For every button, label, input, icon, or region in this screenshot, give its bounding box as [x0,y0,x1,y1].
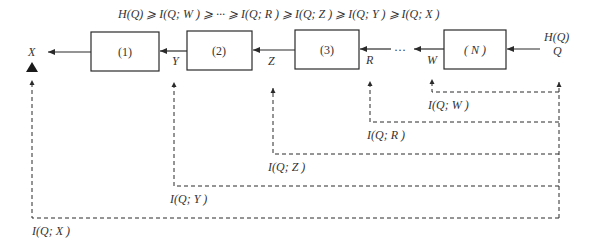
block-3-label: (3) [320,44,334,56]
feedback-w [432,79,559,92]
signal-y: Y [172,55,179,67]
ellipsis: ··· [394,44,406,56]
mi-label-r: I(Q; R ) [367,129,405,141]
signal-r: R [366,54,373,66]
diagram-canvas [0,0,593,239]
inequality-chain: H(Q) ⩾ I(Q; W ) ⩾ ··· ⩾ I(Q; R ) ⩾ I(Q; … [118,7,440,22]
source-q: Q [553,45,562,57]
mi-label-x: I(Q; X ) [32,225,70,237]
block-n-label: ( N ) [464,44,486,56]
mi-label-z: I(Q; Z ) [268,161,305,173]
signal-x: X [28,46,35,58]
feedback-x [32,80,559,218]
signal-z: Z [268,55,275,67]
mi-label-w: I(Q; W ) [428,99,469,111]
mi-label-y: I(Q; Y ) [170,193,207,205]
triangle-marker-icon [26,62,38,72]
block-1-label: (1) [118,46,132,58]
signal-w: W [427,54,437,66]
source-entropy: H(Q) [544,31,569,43]
block-2-label: (2) [212,45,226,57]
feedback-z [273,88,559,154]
